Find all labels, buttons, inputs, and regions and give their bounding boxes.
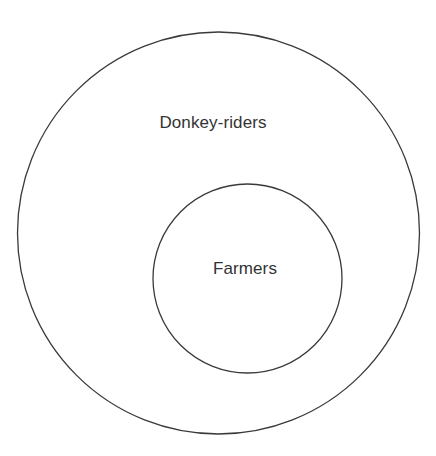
outer-set-label: Donkey-riders	[159, 114, 266, 131]
inner-set-label: Farmers	[213, 260, 277, 277]
diagram-canvas-svg	[0, 0, 436, 456]
outer-set-circle-donkey-riders	[18, 32, 420, 434]
euler-diagram: Donkey-riders Farmers	[0, 0, 436, 456]
inner-set-circle-farmers	[153, 184, 342, 373]
